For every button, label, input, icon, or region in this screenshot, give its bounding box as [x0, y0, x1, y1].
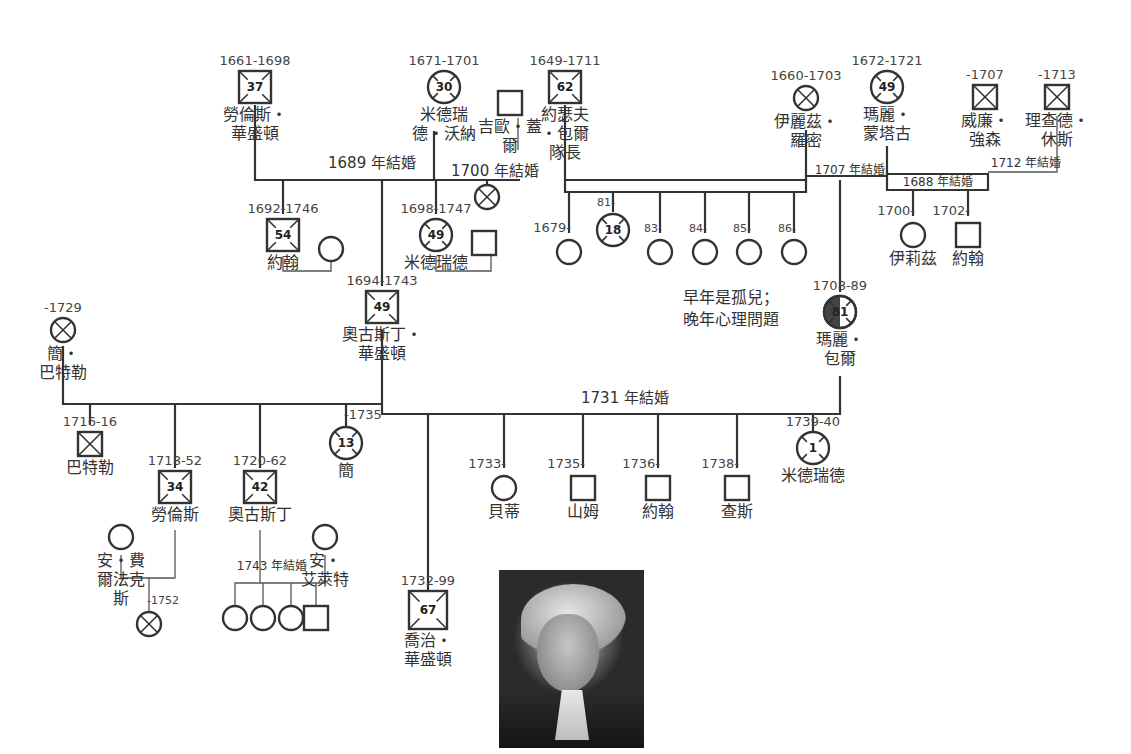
life-years: 1736-: [622, 456, 660, 471]
person-ball-c86[interactable]: 86-: [778, 222, 806, 264]
person-gale-child[interactable]: [475, 185, 499, 209]
person-name: 山姆: [567, 502, 599, 521]
person-george-washington[interactable]: 671732-99喬治・華盛頓: [401, 573, 455, 669]
marriage-label: 1707 年結婚: [815, 163, 885, 177]
male-symbol-icon: [725, 476, 749, 500]
person-aug-c2[interactable]: [251, 606, 275, 630]
person-name: 伊麗茲・: [774, 112, 838, 131]
person-name: 安・: [309, 551, 341, 570]
person-name: 德・沃納: [412, 124, 476, 143]
female-symbol-icon: [648, 240, 672, 264]
person-name: 約翰: [952, 249, 984, 268]
person-john-1702[interactable]: 1702-約翰: [932, 203, 984, 268]
life-years: 1716-16: [63, 414, 117, 429]
female-symbol-icon: [737, 240, 761, 264]
person-lawrence-sr[interactable]: 371661-1698勞倫斯・華盛頓: [220, 53, 291, 143]
female-symbol-icon: [693, 240, 717, 264]
male-symbol-icon: [571, 476, 595, 500]
age-at-death: 81: [832, 305, 849, 319]
person-betty[interactable]: 1733-貝蒂: [468, 456, 520, 521]
life-years: 1692-1746: [248, 201, 319, 216]
age-at-death: 13: [338, 436, 355, 450]
person-name: 米德瑞: [420, 105, 468, 124]
person-william-johnson[interactable]: -1707威廉・強森: [961, 67, 1009, 149]
marriage-label: 1689 年結婚: [328, 154, 416, 172]
person-mildred-1698[interactable]: 491698-1747米德瑞德: [401, 201, 472, 272]
person-lawrence-child[interactable]: -1752: [137, 594, 179, 636]
person-richard-hughes[interactable]: -1713理查德・休斯: [1025, 67, 1089, 149]
life-years: 1698-1747: [401, 201, 472, 216]
person-name: 隊長: [549, 143, 581, 162]
person-name: 斯: [113, 589, 129, 608]
person-mary-ball[interactable]: 811708-89瑪麗・包爾: [813, 278, 867, 368]
age-at-death: 62: [557, 80, 574, 94]
person-john-1692[interactable]: 541692-1746約翰: [248, 201, 319, 272]
person-samuel[interactable]: 1735-山姆: [547, 456, 599, 521]
marriage-label: 1712 年結婚: [991, 156, 1061, 170]
life-years: 1679-: [533, 220, 571, 235]
person-ball-c81[interactable]: 1881-: [597, 196, 629, 246]
marriage-label: 1743 年結婚: [237, 559, 307, 573]
life-years: -1707: [966, 67, 1004, 82]
male-symbol-icon: [472, 231, 496, 255]
person-name: 簡: [338, 461, 354, 480]
person-ball-c84[interactable]: 84-: [689, 222, 717, 264]
person-name: 奧古斯丁: [228, 505, 292, 524]
person-name: 安・費: [97, 551, 145, 570]
person-john-1736[interactable]: 1736-約翰: [622, 456, 674, 521]
age-at-death: 49: [374, 300, 391, 314]
person-aug-c4[interactable]: [304, 606, 328, 630]
person-name: 蒙塔古: [863, 124, 911, 143]
person-name: 強森: [969, 130, 1001, 149]
person-augustine-1720[interactable]: 421720-62奧古斯丁: [228, 453, 292, 524]
person-elizabeth-1700[interactable]: 1700-伊莉茲: [877, 203, 937, 268]
person-mildred-warner[interactable]: 301671-1701米德瑞德・沃納: [409, 53, 480, 143]
person-ball-c83[interactable]: 83-: [644, 222, 672, 264]
person-mary-montague[interactable]: 491672-1721瑪麗・蒙塔古: [852, 53, 923, 143]
person-name: 包爾: [824, 349, 856, 368]
annotation-text: 晚年心理問題: [683, 310, 779, 329]
person-name: 米德瑞德: [781, 466, 845, 485]
person-name: 約翰: [267, 253, 299, 272]
person-george-gale[interactable]: 吉歐・蓋爾: [478, 91, 542, 155]
life-years: 83-: [644, 222, 662, 235]
life-years: 1720-62: [233, 453, 287, 468]
life-years: 86-: [778, 222, 796, 235]
george-washington-portrait: [499, 570, 644, 748]
person-augustine[interactable]: 491694-1743奧古斯丁・華盛頓: [342, 273, 422, 363]
person-name: 艾萊特: [301, 570, 349, 589]
age-at-death: 34: [167, 480, 184, 494]
person-ann-aylett[interactable]: 安・艾萊特: [301, 525, 349, 589]
person-ann-fairfax[interactable]: 安・費爾法克斯: [97, 525, 145, 608]
life-years: 1738-: [701, 456, 739, 471]
person-mildred-1739[interactable]: 11739-40米德瑞德: [781, 414, 845, 485]
female-symbol-icon: [782, 240, 806, 264]
male-symbol-icon: [646, 476, 670, 500]
person-charles[interactable]: 1738-查斯: [701, 456, 753, 521]
person-jane-1735[interactable]: 13-1735簡: [330, 407, 382, 480]
age-at-death: 54: [275, 228, 292, 242]
marriage-label: 1688 年結婚: [903, 175, 973, 189]
person-ball-c1679[interactable]: 1679-: [533, 220, 581, 264]
person-mildred-husband[interactable]: [472, 231, 496, 255]
person-elizabeth-romney[interactable]: 1660-1703伊麗茲・羅密: [771, 68, 842, 150]
person-ball-c85[interactable]: 85-: [733, 222, 761, 264]
life-years: 85-: [733, 222, 751, 235]
person-joseph-ball[interactable]: 621649-1711約瑟夫・包爾隊長: [530, 53, 601, 162]
male-symbol-icon: [304, 606, 328, 630]
female-symbol-icon: [492, 476, 516, 500]
life-years: 1702-: [932, 203, 970, 218]
person-lawrence-1718[interactable]: 341718-52勞倫斯: [148, 453, 202, 524]
life-years: 1660-1703: [771, 68, 842, 83]
person-butler-1716[interactable]: 1716-16巴特勒: [63, 414, 117, 477]
life-years: -1713: [1038, 67, 1076, 82]
person-john-wife[interactable]: [319, 237, 343, 261]
person-aug-c3[interactable]: [279, 606, 303, 630]
person-aug-c1[interactable]: [223, 606, 247, 630]
female-symbol-icon: [251, 606, 275, 630]
person-name: 爾: [502, 136, 518, 155]
person-name: 華盛頓: [404, 650, 452, 669]
person-jane-butler[interactable]: -1729簡・巴特勒: [39, 300, 87, 382]
marriage-label: 1700 年結婚: [451, 162, 539, 180]
female-symbol-icon: [313, 525, 337, 549]
